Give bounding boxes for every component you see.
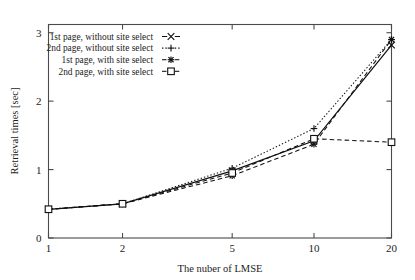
data-point-marker-open-square xyxy=(388,139,395,146)
chart-figure: 0123 1251020 1st page, without site sele… xyxy=(0,0,415,280)
y-tick-label: 2 xyxy=(36,95,42,107)
data-point-marker-open-square xyxy=(311,135,318,142)
y-axis-title: Retrieval times [sec] xyxy=(9,88,20,175)
x-tick-label: 2 xyxy=(120,242,126,254)
x-tick-label: 10 xyxy=(308,242,320,254)
legend-label: 1st page, without site select xyxy=(50,32,154,42)
data-point-marker-asterisk xyxy=(388,36,395,43)
data-point-marker-open-square xyxy=(229,170,236,177)
data-point-marker-asterisk xyxy=(168,56,175,63)
data-point-marker-open-square xyxy=(45,206,52,213)
data-point-marker-open-square xyxy=(168,68,175,75)
x-axis-title: The nuber of LMSE xyxy=(178,263,263,274)
y-tick-label: 0 xyxy=(36,232,42,244)
legend-label: 2nd page, with site select xyxy=(58,67,153,77)
legend-label: 1st page, with site select xyxy=(62,55,154,65)
data-point-marker-open-square xyxy=(119,200,126,207)
x-tick-label: 1 xyxy=(46,242,52,254)
x-tick-label: 5 xyxy=(229,242,235,254)
legend-label: 2nd page, without site select xyxy=(47,43,154,53)
line-chart-canvas: 0123 1251020 1st page, without site sele… xyxy=(0,0,415,280)
y-tick-label: 3 xyxy=(36,27,42,39)
y-tick-label: 1 xyxy=(36,164,42,176)
x-tick-label: 20 xyxy=(386,242,398,254)
